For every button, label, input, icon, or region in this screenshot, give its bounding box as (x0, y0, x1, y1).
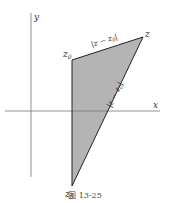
x-axis-label: x (153, 100, 158, 110)
point-z-label: z (144, 29, 150, 39)
diagram-canvas: y x z0 z z0 |z − z0| |z − z0| (0, 0, 170, 203)
point-z0-top-label: z0 (62, 49, 72, 60)
figure-caption: 图 13-25 (0, 189, 170, 200)
y-axis-label: y (33, 12, 40, 22)
